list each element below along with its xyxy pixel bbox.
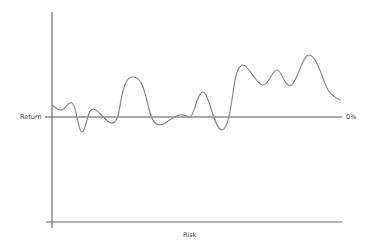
zero-percent-label: 0% [346, 113, 356, 121]
y-axis-label: Return [20, 113, 42, 121]
x-axis-label: Risk [183, 231, 197, 239]
risk-return-chart: Return 0% Risk [0, 0, 375, 250]
return-curve [52, 55, 340, 132]
